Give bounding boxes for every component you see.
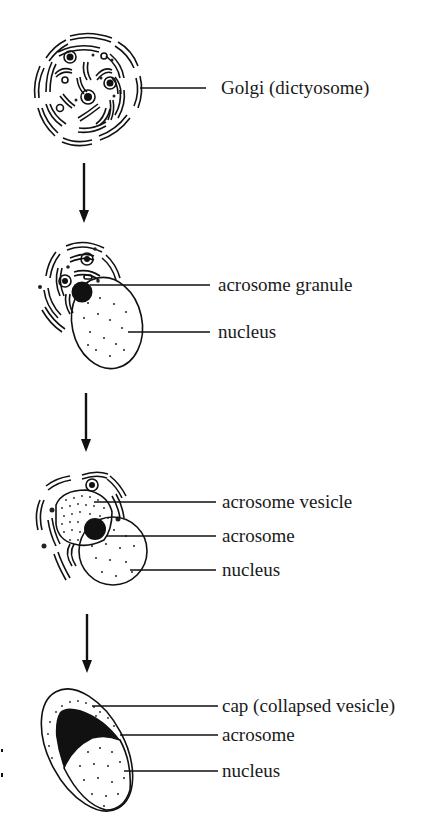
arrow-down-icon [79,163,89,223]
stage-1-golgi-cell [35,33,142,145]
label-acrosome-granule: acrosome granule [218,274,353,295]
label-acrosome-4: acrosome [222,724,295,745]
label-nucleus-4: nucleus [222,760,280,781]
label-acrosome-vesicle: acrosome vesicle [222,491,352,512]
label-acrosome-3: acrosome [222,525,295,546]
label-nucleus-3: nucleus [222,559,280,580]
acrosome-shape [84,518,106,540]
scan-artifact [1,749,3,752]
stage-4-cell [22,674,151,826]
label-golgi: Golgi (dictyosome) [221,77,369,99]
scan-artifact [1,773,3,777]
acrosome-granule-shape [72,282,93,303]
arrow-down-icon [82,614,92,673]
acrosome-formation-diagram: Golgi (dictyosome) [0,0,447,826]
label-nucleus-2: nucleus [218,321,276,342]
cap-shape [22,674,151,826]
stage-3-cell [36,472,147,585]
stage-2-cell [38,242,151,375]
arrow-down-icon [81,393,91,452]
label-cap: cap (collapsed vesicle) [222,695,395,717]
